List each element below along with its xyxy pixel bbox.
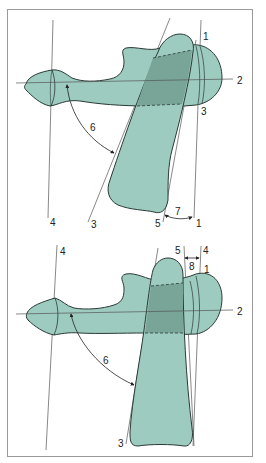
top-label-4: 4: [50, 217, 56, 228]
bottom-overlap-region: [145, 283, 183, 333]
top-panel: 1 2 3 6 4 3 5 7 1: [16, 18, 243, 230]
top-label-5: 5: [155, 218, 161, 229]
top-label-3-right: 3: [201, 106, 207, 117]
bottom-line-4-left: [46, 245, 57, 450]
bottom-label-4-right: 4: [203, 245, 209, 256]
top-label-6: 6: [90, 122, 96, 133]
bottom-label-2: 2: [237, 306, 243, 317]
bottom-panel: 4 5 4 8 1 2 6 3: [16, 245, 243, 450]
bottom-label-1: 1: [204, 264, 210, 275]
bottom-label-4-left: 4: [60, 246, 66, 257]
diagram-canvas: 1 2 3 6 4 3 5 7 1: [0, 0, 266, 463]
bottom-label-6: 6: [103, 355, 109, 366]
top-line-4: [48, 20, 53, 218]
top-label-7: 7: [175, 206, 181, 217]
top-label-2: 2: [237, 75, 243, 86]
top-label-1-bottom: 1: [196, 218, 202, 229]
bottom-label-3: 3: [118, 438, 124, 449]
top-label-1: 1: [203, 31, 209, 42]
top-label-3-bottom: 3: [91, 219, 97, 230]
bottom-label-5: 5: [175, 245, 181, 256]
bottom-label-8: 8: [189, 261, 195, 272]
